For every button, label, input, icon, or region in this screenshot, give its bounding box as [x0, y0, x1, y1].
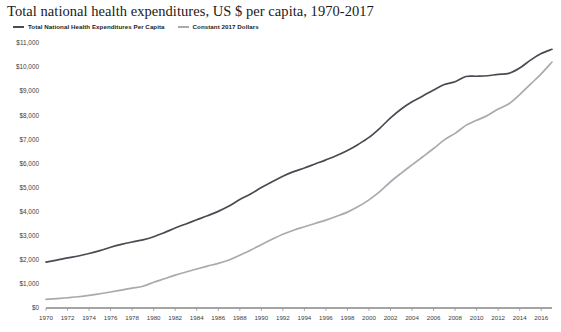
y-axis-tick-label: $0	[32, 304, 40, 311]
y-axis-tick-label: $6,000	[19, 160, 39, 167]
x-axis-tick-label: 2004	[405, 314, 419, 321]
x-axis-tick-label: 2008	[448, 314, 462, 321]
y-axis-tick-label: $1,000	[19, 280, 39, 287]
y-axis-tick-label: $9,000	[19, 87, 39, 94]
y-axis: $11,000$10,000$9,000$8,000$7,000$6,000$5…	[16, 39, 40, 311]
x-axis: 1970197219741976197819801982198419861988…	[39, 308, 552, 321]
x-axis-tick-label: 1984	[190, 314, 204, 321]
x-axis-tick-label: 1982	[168, 314, 182, 321]
x-axis-tick-label: 1990	[254, 314, 268, 321]
x-axis-tick-label: 1980	[147, 314, 161, 321]
x-axis-tick-label: 2014	[513, 314, 527, 321]
x-axis-tick-label: 1970	[39, 314, 53, 321]
x-axis-tick-label: 1986	[211, 314, 225, 321]
series-lines	[46, 49, 552, 299]
x-axis-tick-label: 1976	[104, 314, 118, 321]
x-axis-tick-label: 1978	[125, 314, 139, 321]
x-axis-tick-label: 2000	[362, 314, 376, 321]
x-axis-tick-label: 1974	[82, 314, 96, 321]
series-line-constant-2017-dollars	[46, 49, 552, 262]
plot-area: $11,000$10,000$9,000$8,000$7,000$6,000$5…	[0, 0, 561, 332]
x-axis-tick-label: 2002	[384, 314, 398, 321]
y-axis-tick-label: $10,000	[16, 63, 40, 70]
x-axis-tick-label: 2016	[534, 314, 548, 321]
y-axis-tick-label: $4,000	[19, 208, 39, 215]
y-axis-tick-label: $7,000	[19, 136, 39, 143]
x-axis-tick-label: 2012	[491, 314, 505, 321]
x-axis-tick-label: 1996	[319, 314, 333, 321]
series-line-nominal-per-capita	[46, 62, 552, 299]
y-axis-tick-label: $3,000	[19, 232, 39, 239]
x-axis-tick-label: 2010	[470, 314, 484, 321]
x-axis-tick-label: 2006	[427, 314, 441, 321]
x-axis-tick-label: 1998	[341, 314, 355, 321]
y-axis-tick-label: $11,000	[16, 39, 39, 46]
y-axis-tick-label: $5,000	[19, 184, 39, 191]
y-axis-tick-label: $8,000	[19, 112, 39, 119]
x-axis-tick-label: 1994	[298, 314, 312, 321]
x-axis-tick-label: 1988	[233, 314, 247, 321]
line-chart-svg: $11,000$10,000$9,000$8,000$7,000$6,000$5…	[0, 0, 561, 332]
x-axis-tick-label: 1972	[61, 314, 75, 321]
x-axis-tick-label: 1992	[276, 314, 290, 321]
y-axis-tick-label: $2,000	[19, 256, 39, 263]
chart-container: Total national health expenditures, US $…	[0, 0, 561, 332]
